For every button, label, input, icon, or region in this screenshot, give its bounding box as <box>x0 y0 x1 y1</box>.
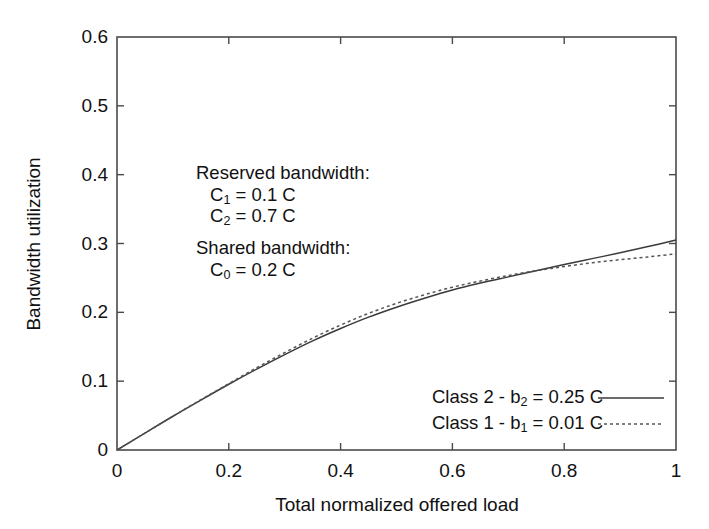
x-tick-label: 0.4 <box>327 460 353 482</box>
annotation-shared-bandwidth: Shared bandwidth:C0 = 0.2 C <box>196 237 350 280</box>
x-tick-label: 1 <box>671 460 682 482</box>
legend-entry-class-2: Class 2 - b2 = 0.25 C <box>432 386 603 408</box>
y-tick-label: 0.1 <box>58 370 108 392</box>
y-axis-title: Bandwidth utilization <box>23 157 45 330</box>
chart-figure: 00.20.40.60.81 00.10.20.30.40.50.6 Total… <box>0 0 709 529</box>
annotation-heading: Reserved bandwidth: <box>196 162 370 184</box>
y-tick-label: 0.4 <box>58 164 108 186</box>
x-tick-label: 0.8 <box>551 460 577 482</box>
annotation-line: C2 = 0.7 C <box>196 205 370 227</box>
legend-entry-class-1: Class 1 - b1 = 0.01 C <box>432 412 603 434</box>
annotation-line: C1 = 0.1 C <box>196 184 370 206</box>
y-tick-label: 0.3 <box>58 233 108 255</box>
y-tick-label: 0 <box>58 439 108 461</box>
x-axis-title: Total normalized offered load <box>275 494 519 516</box>
annotation-heading: Shared bandwidth: <box>196 237 350 259</box>
y-tick-label: 0.2 <box>58 301 108 323</box>
annotation-line: C0 = 0.2 C <box>196 259 350 281</box>
x-tick-label: 0 <box>112 460 123 482</box>
y-tick-label: 0.5 <box>58 95 108 117</box>
y-tick-label: 0.6 <box>58 26 108 48</box>
x-tick-label: 0.2 <box>216 460 242 482</box>
annotation-reserved-bandwidth: Reserved bandwidth:C1 = 0.1 CC2 = 0.7 C <box>196 162 370 227</box>
x-tick-label: 0.6 <box>439 460 465 482</box>
